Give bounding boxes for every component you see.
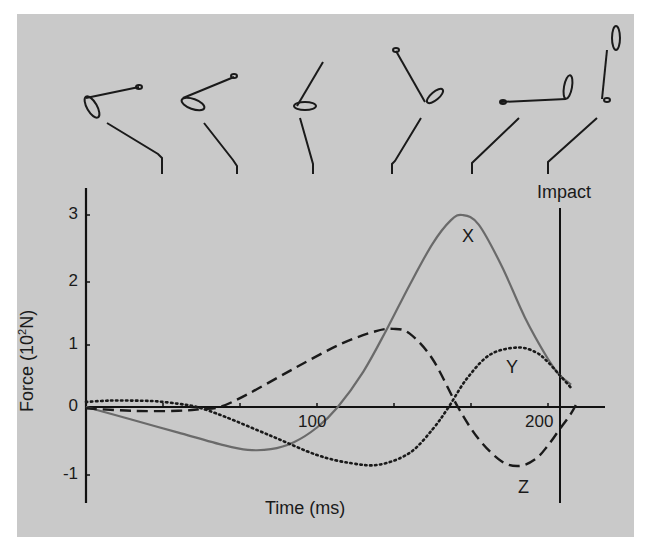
swing-figure-4 <box>392 48 445 174</box>
y-tick-label-1: 1 <box>48 334 78 354</box>
impact-label: Impact <box>537 182 591 203</box>
x-axis-label: Time (ms) <box>265 498 345 519</box>
y-tick-label-neg1: -1 <box>48 464 78 484</box>
y-axis-label: Force (102N) <box>16 310 38 412</box>
y-tick-label-2: 2 <box>48 271 78 291</box>
series-y-label: Y <box>506 357 518 378</box>
x-tick-label-200: 200 <box>525 412 553 432</box>
y-tick-label-3: 3 <box>48 204 78 224</box>
swing-figure-5 <box>472 74 574 174</box>
swing-figures <box>82 26 620 174</box>
swing-figure-2 <box>180 74 237 174</box>
series-x-label: X <box>462 226 474 247</box>
x-tick-label-100: 100 <box>298 412 326 432</box>
y-tick-label-0: 0 <box>48 396 78 416</box>
series-z-label: Z <box>518 477 529 498</box>
swing-figure-1 <box>82 85 162 174</box>
series-x-line <box>86 215 571 450</box>
swing-figure-3 <box>294 62 323 174</box>
chart-svg <box>0 0 646 551</box>
